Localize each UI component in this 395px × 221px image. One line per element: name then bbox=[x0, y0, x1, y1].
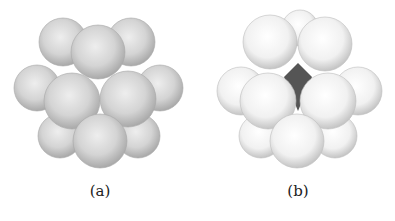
sphere-atom bbox=[71, 25, 125, 79]
sphere-atom bbox=[298, 17, 352, 71]
sphere-atom bbox=[270, 114, 324, 168]
panel-a-cluster bbox=[14, 18, 183, 168]
panel-a-label: (a) bbox=[90, 182, 111, 200]
panel-b-label: (b) bbox=[287, 182, 308, 200]
cluster-figure bbox=[0, 0, 395, 221]
panel-b-cluster bbox=[217, 10, 382, 168]
sphere-atom bbox=[73, 114, 127, 168]
sphere-atom bbox=[243, 15, 297, 69]
